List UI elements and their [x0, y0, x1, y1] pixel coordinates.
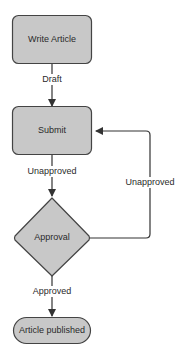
node-label-article-published: Article published — [19, 325, 85, 335]
node-submit: Submit — [13, 107, 92, 155]
node-label-write-article: Write Article — [28, 34, 76, 44]
edge-label-draft: Draft — [42, 74, 62, 84]
edge-to-approval: Unapproved — [26, 155, 78, 196]
edge-label-unapproved-down: Unapproved — [27, 166, 76, 176]
node-approval: Approval — [15, 198, 90, 276]
edge-label-unapproved-loop: Unapproved — [125, 177, 174, 187]
node-article-published: Article published — [14, 318, 91, 344]
edge-draft: Draft — [38, 64, 66, 106]
edge-loop-back: Unapproved — [90, 131, 178, 238]
node-label-approval: Approval — [34, 232, 70, 242]
edge-approved: Approved — [30, 275, 74, 316]
edge-label-approved: Approved — [33, 286, 72, 296]
node-label-submit: Submit — [38, 125, 67, 135]
node-write-article: Write Article — [13, 16, 92, 64]
flowchart: Draft Unapproved Unapproved Approved Wri… — [0, 0, 184, 359]
